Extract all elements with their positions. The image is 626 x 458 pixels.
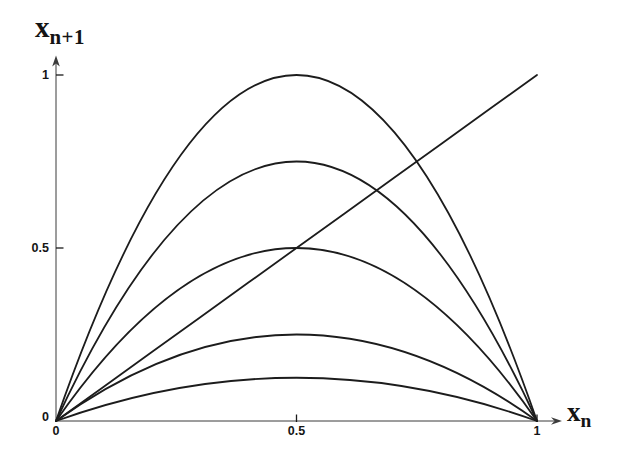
x-tick-label: 0.5	[288, 424, 305, 438]
y-axis-label-base: x	[35, 11, 50, 43]
y-tick-label: 1	[42, 68, 49, 82]
x-axis-label-subscript: n	[581, 410, 592, 431]
curve-identity	[56, 75, 537, 421]
logistic-map-figure: 00.5100.51 xn+1 xn	[0, 0, 626, 458]
x-tick-label: 0	[53, 424, 60, 438]
y-tick-label: 0.5	[32, 241, 49, 255]
plot-svg: 00.5100.51	[0, 0, 626, 458]
x-axis-label-base: x	[567, 397, 581, 427]
x-axis-label: xn	[567, 399, 592, 426]
curve-r3	[56, 162, 537, 422]
y-tick-label: 0	[42, 410, 49, 424]
y-axis-label-subscript: n+1	[50, 25, 85, 49]
x-tick-label: 1	[534, 424, 541, 438]
y-axis-label: xn+1	[35, 13, 85, 42]
